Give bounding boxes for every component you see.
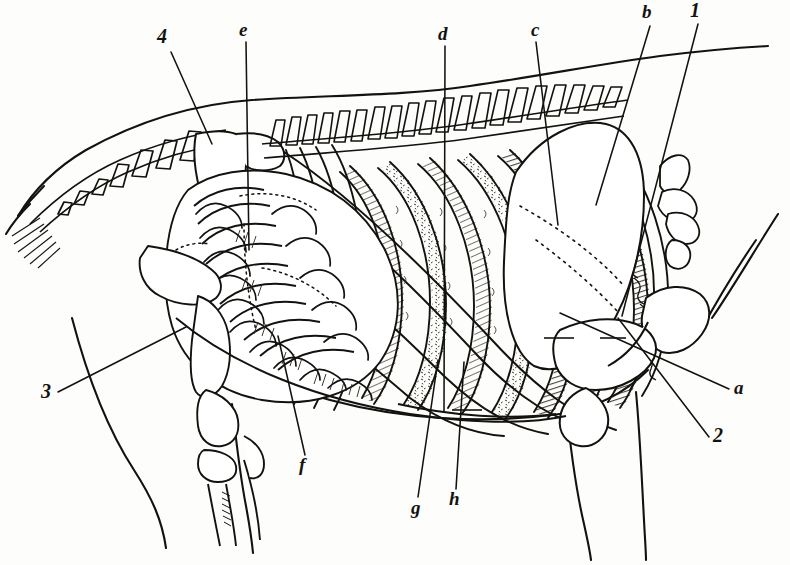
figure-label-b: b <box>642 2 652 21</box>
leader-line-d <box>444 46 445 412</box>
figure-label-e: e <box>239 20 247 39</box>
figure-label-1: 1 <box>690 0 700 20</box>
figure-label-a: a <box>734 378 744 397</box>
anatomical-figure: 4edcb1a23fgh <box>0 0 790 565</box>
anatomy-plate <box>0 0 790 565</box>
figure-label-h: h <box>449 489 460 508</box>
figure-label-f: f <box>299 455 305 474</box>
figure-label-g: g <box>411 498 421 517</box>
figure-label-3: 3 <box>41 381 51 401</box>
figure-label-d: d <box>438 24 448 43</box>
figure-label-2: 2 <box>713 425 723 445</box>
figure-label-4: 4 <box>157 26 167 46</box>
figure-label-c: c <box>531 20 539 39</box>
